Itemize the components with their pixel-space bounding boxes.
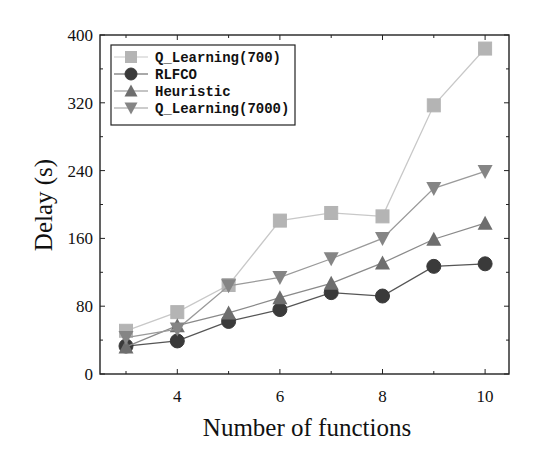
series-rlfco xyxy=(119,257,492,353)
square-marker xyxy=(376,210,389,223)
x-axis-title: Number of functions xyxy=(203,414,411,441)
triangle-up-marker xyxy=(426,232,441,246)
circle-marker xyxy=(273,303,287,317)
triangle-up-marker xyxy=(375,255,390,269)
triangle-down-marker xyxy=(478,165,493,179)
legend-label: Heuristic xyxy=(155,84,231,100)
triangle-up-marker xyxy=(272,290,287,304)
y-tick-label: 240 xyxy=(68,162,94,181)
square-marker xyxy=(325,206,338,219)
circle-marker xyxy=(125,68,137,80)
y-tick-label: 0 xyxy=(85,365,94,384)
legend: Q_Learning(700)RLFCOHeuristicQ_Learning(… xyxy=(111,45,295,125)
series-line xyxy=(126,264,485,346)
line-chart: 080160240320400 46810 Q_Learning(700)RLF… xyxy=(0,0,541,463)
x-tick-label: 6 xyxy=(276,387,285,406)
y-tick-label: 80 xyxy=(76,297,93,316)
triangle-up-marker xyxy=(478,216,493,230)
x-tick-label: 4 xyxy=(173,387,182,406)
triangle-down-marker xyxy=(324,252,339,266)
triangle-up-marker xyxy=(221,305,236,319)
circle-marker xyxy=(427,259,441,273)
circle-marker xyxy=(376,289,390,303)
legend-label: Q_Learning(700) xyxy=(155,50,281,66)
y-tick-label: 160 xyxy=(68,229,94,248)
legend-label: Q_Learning(7000) xyxy=(155,101,289,117)
x-tick-label: 10 xyxy=(477,387,494,406)
triangle-down-marker xyxy=(375,232,390,246)
square-marker xyxy=(427,99,440,112)
y-tick-label: 400 xyxy=(68,26,94,45)
x-tick-label: 8 xyxy=(378,387,387,406)
square-marker xyxy=(479,42,492,55)
square-marker xyxy=(171,306,184,319)
square-marker xyxy=(273,214,286,227)
legend-label: RLFCO xyxy=(155,67,197,83)
triangle-up-marker xyxy=(324,276,339,290)
y-axis-title: Delay (s) xyxy=(30,159,58,251)
series-heuristic xyxy=(119,216,493,354)
circle-marker xyxy=(478,257,492,271)
y-tick-label: 320 xyxy=(68,94,94,113)
square-marker xyxy=(126,52,137,63)
